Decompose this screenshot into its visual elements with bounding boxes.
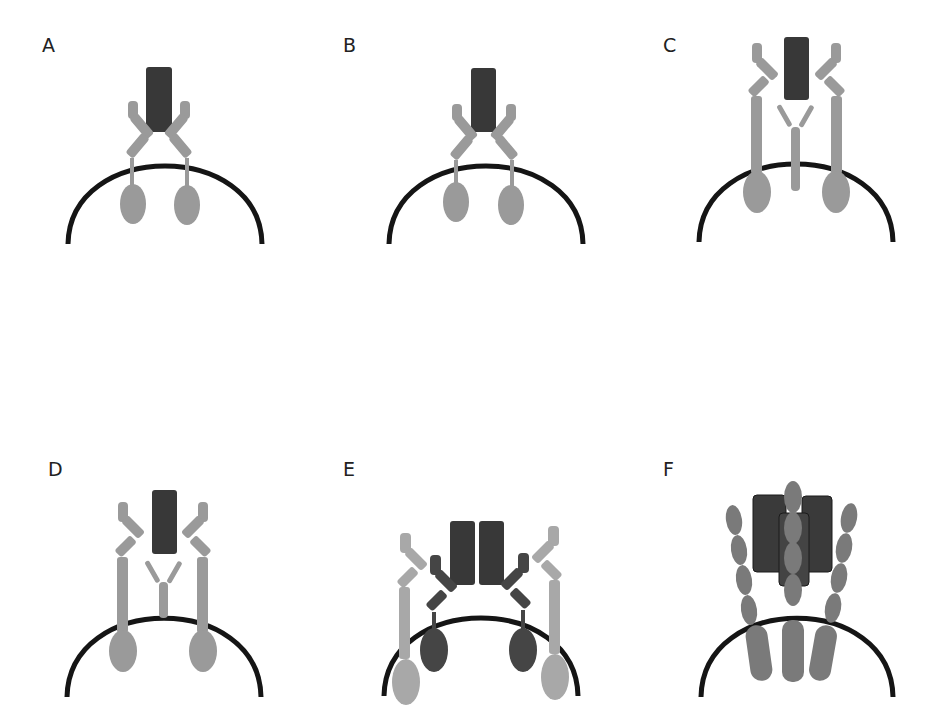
panel-e <box>384 521 578 705</box>
panel-a <box>68 67 262 244</box>
cell-membrane <box>389 166 583 244</box>
panel-b <box>389 68 583 244</box>
receptor-domain-light <box>392 659 420 705</box>
receptor-domain <box>120 184 146 224</box>
receptor-domain <box>822 171 850 213</box>
receptor-domain <box>498 185 524 225</box>
ligand <box>471 68 496 132</box>
ligand-dimer-left <box>450 521 475 585</box>
ligand <box>146 67 172 132</box>
receptor-domain <box>443 182 469 222</box>
receptor-domain <box>743 171 771 213</box>
y-coreceptor <box>144 560 182 618</box>
cell-membrane <box>67 618 261 697</box>
receptor-domain <box>174 185 200 225</box>
receptor-domain <box>189 630 217 672</box>
receptor-domain-light <box>541 654 569 700</box>
ligand <box>152 490 177 554</box>
panel-c <box>699 37 893 242</box>
receptor-domain-dark <box>509 628 537 672</box>
panel-f <box>701 481 893 697</box>
cell-membrane <box>68 166 262 244</box>
ligand <box>784 37 809 100</box>
panel-d <box>67 490 261 697</box>
y-coreceptor <box>776 104 814 191</box>
figure-canvas <box>0 0 938 724</box>
receptor-domain <box>109 630 137 672</box>
receptor-domain-dark <box>420 628 448 672</box>
ligand-dimer-right <box>479 521 504 585</box>
